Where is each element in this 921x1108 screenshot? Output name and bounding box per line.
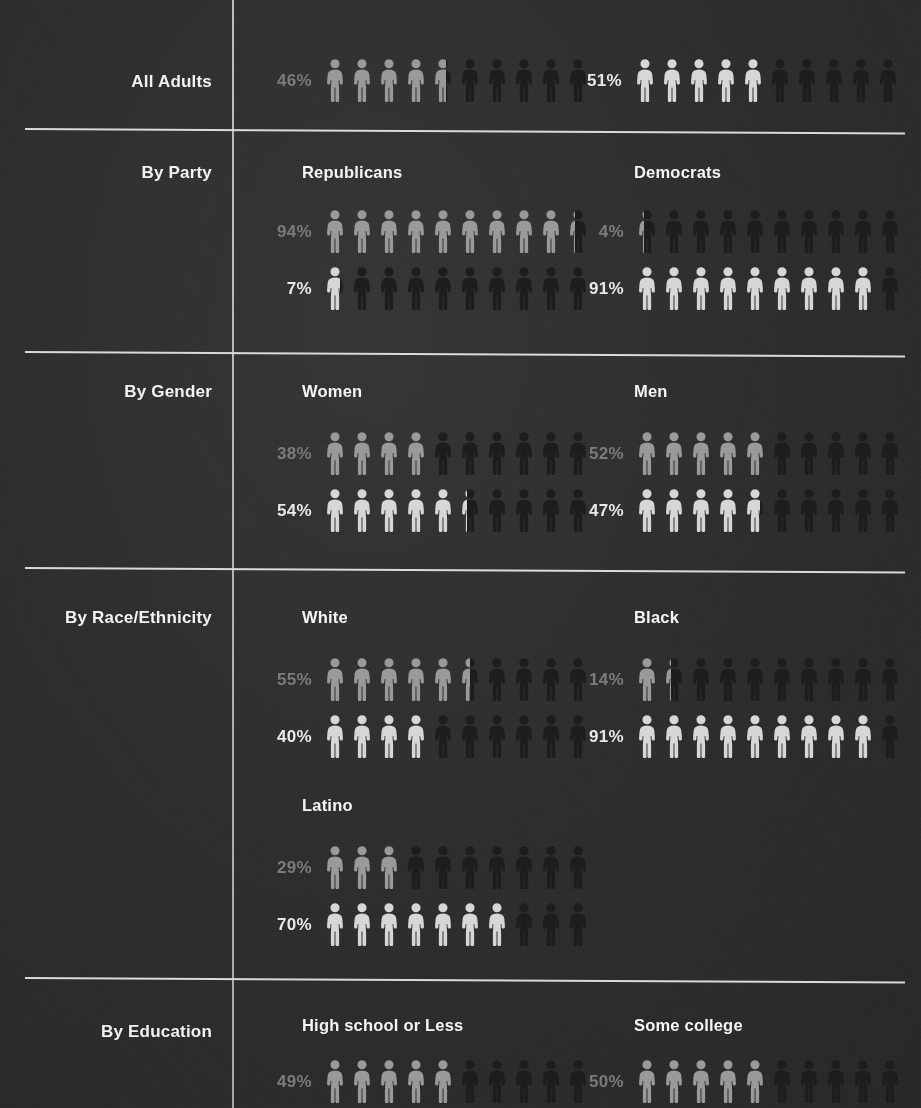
value-label: 14%	[572, 671, 624, 688]
person-icon-empty	[877, 266, 903, 310]
person-icon	[511, 431, 537, 475]
person-icon	[430, 488, 456, 532]
person-icon-filled	[403, 488, 429, 532]
person-icon	[742, 714, 768, 758]
person-icon	[742, 657, 768, 701]
section-divider-4	[25, 977, 905, 984]
person-icon-filled	[661, 657, 671, 701]
pictogram-figures	[632, 58, 902, 102]
person-icon	[823, 431, 849, 475]
person-icon	[322, 58, 348, 102]
person-icon-empty	[511, 902, 537, 946]
person-icon	[457, 488, 483, 532]
person-icon	[322, 714, 348, 758]
pictogram-figures	[322, 488, 592, 532]
person-icon	[403, 266, 429, 310]
person-icon-empty	[769, 488, 795, 532]
pictogram-figures	[322, 431, 592, 475]
person-icon-filled	[769, 266, 795, 310]
person-icon	[322, 266, 348, 310]
person-icon	[511, 714, 537, 758]
person-icon-filled	[349, 488, 375, 532]
person-icon-filled	[376, 58, 402, 102]
person-icon	[430, 1059, 456, 1103]
person-icon-filled	[715, 714, 741, 758]
person-icon-filled	[713, 58, 739, 102]
person-icon-filled	[376, 714, 402, 758]
person-icon-filled	[349, 902, 375, 946]
person-icon	[376, 431, 402, 475]
person-icon-empty	[877, 1059, 903, 1103]
person-icon-filled	[322, 58, 348, 102]
person-icon	[634, 266, 660, 310]
person-icon	[769, 1059, 795, 1103]
person-icon-empty	[848, 58, 874, 102]
person-icon-filled	[322, 209, 348, 253]
section-label-by-party: By Party	[0, 163, 212, 183]
person-icon-empty	[511, 845, 537, 889]
person-icon	[823, 1059, 849, 1103]
person-icon	[877, 209, 903, 253]
person-icon-filled	[661, 431, 687, 475]
person-icon	[715, 714, 741, 758]
person-icon-filled	[661, 266, 687, 310]
value-label: 94%	[260, 223, 312, 240]
person-icon-empty	[821, 58, 847, 102]
person-icon-empty	[796, 209, 822, 253]
group-title: Republicans	[302, 163, 402, 182]
person-icon	[823, 488, 849, 532]
person-icon	[661, 488, 687, 532]
person-icon	[769, 209, 795, 253]
person-icon	[511, 488, 537, 532]
person-icon	[715, 1059, 741, 1103]
person-icon	[715, 266, 741, 310]
person-icon	[715, 488, 741, 532]
person-icon	[823, 714, 849, 758]
value-label: 91%	[572, 280, 624, 297]
person-icon	[794, 58, 820, 102]
person-icon	[457, 657, 483, 701]
value-label: 4%	[572, 223, 624, 240]
person-icon-filled	[688, 431, 714, 475]
person-icon-empty	[457, 845, 483, 889]
person-icon	[796, 431, 822, 475]
person-icon-filled	[634, 714, 660, 758]
person-icon-empty	[484, 714, 510, 758]
pictogram-figures	[322, 266, 592, 310]
person-icon-filled	[376, 657, 402, 701]
person-icon	[376, 657, 402, 701]
picto-row: 14%	[572, 656, 904, 702]
person-icon	[634, 1059, 660, 1103]
picto-row: 29%	[260, 844, 592, 890]
value-label: 91%	[572, 728, 624, 745]
person-icon-filled	[823, 266, 849, 310]
person-icon-filled	[322, 657, 348, 701]
person-icon-filled	[322, 845, 348, 889]
person-icon	[322, 845, 348, 889]
person-icon	[823, 657, 849, 701]
person-icon	[565, 845, 591, 889]
person-icon	[769, 431, 795, 475]
person-icon	[403, 1059, 429, 1103]
person-icon	[376, 209, 402, 253]
person-icon-empty	[823, 488, 849, 532]
person-icon	[511, 266, 537, 310]
person-icon	[511, 657, 537, 701]
person-icon-empty	[796, 431, 822, 475]
person-icon	[322, 657, 348, 701]
person-icon-empty	[430, 266, 456, 310]
person-icon	[511, 58, 537, 102]
person-icon-filled	[796, 266, 822, 310]
person-icon	[823, 266, 849, 310]
person-icon-empty	[769, 1059, 795, 1103]
pictogram-figures	[322, 58, 592, 102]
person-icon	[740, 58, 766, 102]
picto-row: 52%	[572, 430, 904, 476]
person-icon-filled	[742, 714, 768, 758]
person-icon	[877, 431, 903, 475]
person-icon	[565, 902, 591, 946]
person-icon-filled	[715, 488, 741, 532]
person-icon	[634, 209, 660, 253]
person-icon	[349, 209, 375, 253]
person-icon-empty	[538, 488, 564, 532]
